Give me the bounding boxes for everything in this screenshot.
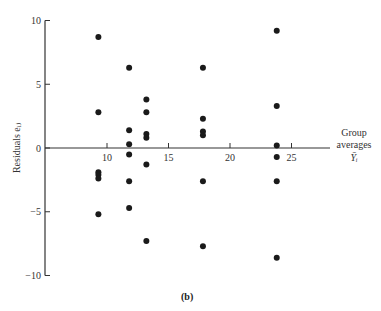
data-point — [274, 154, 280, 160]
data-point — [274, 255, 280, 261]
data-point — [126, 65, 132, 71]
data-point — [143, 238, 149, 244]
data-point — [143, 109, 149, 115]
data-point — [274, 28, 280, 34]
data-point — [126, 141, 132, 147]
data-point — [95, 176, 101, 182]
data-point — [200, 243, 206, 249]
data-point — [143, 135, 149, 141]
data-point — [274, 178, 280, 184]
x-tick-label: 25 — [287, 152, 297, 163]
y-axis-title: Residuals eᵢⱼ — [11, 123, 22, 173]
y-tick-label: 10 — [31, 15, 41, 26]
data-points — [95, 28, 279, 261]
data-point — [200, 132, 206, 138]
x-axis-title-line3: Ȳᵢ — [350, 152, 358, 163]
y-tick-label: 0 — [36, 143, 41, 154]
data-point — [95, 211, 101, 217]
residual-scatter-plot: 1050−5−1010152025 GroupaveragesȲᵢResidua… — [0, 0, 381, 311]
x-axis-title-line1: Group — [341, 127, 367, 138]
data-point — [274, 103, 280, 109]
data-point — [95, 34, 101, 40]
data-point — [126, 205, 132, 211]
y-tick-label: −10 — [25, 270, 41, 281]
data-point — [126, 151, 132, 157]
data-point — [143, 97, 149, 103]
data-point — [95, 109, 101, 115]
x-tick-label: 20 — [225, 152, 235, 163]
figure-caption: (b) — [181, 291, 193, 302]
data-point — [200, 178, 206, 184]
x-tick-label: 15 — [164, 152, 174, 163]
x-axis-title-line2: averages — [337, 139, 372, 150]
data-point — [143, 162, 149, 168]
axes: 1050−5−1010152025 — [25, 15, 330, 281]
y-tick-label: −5 — [30, 206, 41, 217]
data-point — [126, 127, 132, 133]
y-tick-label: 5 — [36, 79, 41, 90]
data-point — [200, 116, 206, 122]
data-point — [126, 178, 132, 184]
data-point — [274, 142, 280, 148]
data-point — [200, 65, 206, 71]
x-tick-label: 10 — [102, 152, 112, 163]
